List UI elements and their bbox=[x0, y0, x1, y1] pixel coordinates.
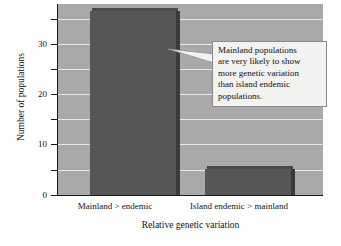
callout-leader-line bbox=[168, 47, 214, 67]
y-tick-label-30: 30 bbox=[38, 40, 47, 49]
y-tick-0 bbox=[51, 195, 58, 196]
y-tick-5 bbox=[51, 170, 58, 171]
callout-line-1: Mainland populations bbox=[218, 45, 322, 56]
callout-line-2: are very likely to show bbox=[218, 56, 322, 67]
x-axis-line bbox=[58, 195, 323, 196]
y-tick-30 bbox=[51, 44, 58, 45]
y-tick-label-0: 0 bbox=[43, 191, 48, 200]
bar-chart-figure: 0 10 20 30 Number of populations Mainlan… bbox=[0, 0, 341, 246]
y-axis-title: Number of populations bbox=[16, 27, 26, 167]
y-tick-label-20: 20 bbox=[38, 90, 47, 99]
bar-side-shadow bbox=[176, 11, 180, 195]
bar-top-highlight bbox=[207, 166, 293, 169]
callout-line-3: more genetic variation bbox=[218, 68, 322, 79]
y-tick-10 bbox=[51, 144, 58, 145]
annotation-callout: Mainland populations are very likely to … bbox=[212, 41, 327, 107]
y-tick-25 bbox=[51, 69, 58, 70]
y-tick-20 bbox=[51, 94, 58, 95]
callout-line-5: populations. bbox=[218, 91, 322, 102]
bar-mainland-greater-than-endemic bbox=[90, 11, 176, 195]
y-tick-label-10: 10 bbox=[38, 140, 47, 149]
bar-island-endemic-greater-than-mainland bbox=[205, 169, 291, 195]
x-tick-label-mainland-greater-than-endemic: Mainland > endemic bbox=[60, 201, 170, 211]
x-axis-title: Relative genetic variation bbox=[58, 220, 323, 230]
bar-side-shadow bbox=[291, 169, 295, 195]
y-tick-35 bbox=[51, 19, 58, 20]
bar-top-highlight bbox=[92, 8, 178, 11]
y-tick-15 bbox=[51, 119, 58, 120]
y-axis-line bbox=[57, 4, 58, 196]
x-tick-label-island-endemic-greater-than-mainland: Island endemic > mainland bbox=[176, 201, 302, 211]
callout-line-4: than island endemic bbox=[218, 79, 322, 90]
